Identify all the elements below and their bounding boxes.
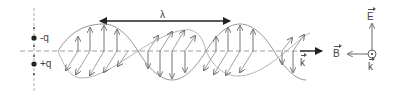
wavelength-label: λ bbox=[160, 10, 165, 20]
e-field-wave bbox=[58, 24, 306, 80]
propagation-label: k bbox=[300, 58, 305, 68]
negative-charge-icon bbox=[31, 35, 36, 40]
axes-inset bbox=[348, 24, 376, 58]
k-axis-label: k bbox=[368, 62, 373, 72]
positive-charge-icon bbox=[31, 61, 36, 66]
b-field-wave bbox=[58, 30, 310, 78]
negative-charge-label: -q bbox=[40, 33, 49, 43]
e-axis-label: E bbox=[367, 12, 374, 22]
positive-charge-label: +q bbox=[40, 59, 51, 69]
b-axis-label: B bbox=[333, 49, 340, 59]
dipole-antenna bbox=[31, 8, 36, 92]
